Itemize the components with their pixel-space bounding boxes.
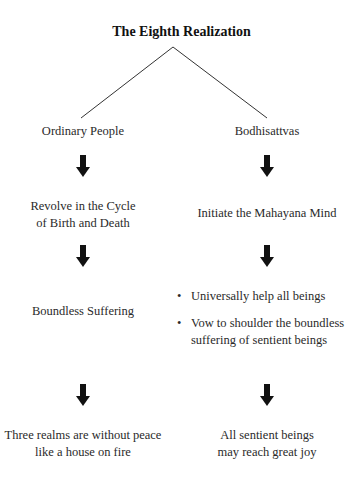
bullet-item: • Vow to shoulder the boundless sufferin… — [177, 315, 344, 349]
down-arrow-icon — [260, 245, 274, 267]
bodhisattva-bullet-list: • Universally help all beings • Vow to s… — [177, 288, 344, 349]
step-three-realms: Three realms are without peace like a ho… — [0, 427, 166, 461]
step-cycle-of-birth-death: Revolve in the Cycle of Birth and Death — [0, 198, 166, 232]
down-arrow-icon — [76, 384, 90, 406]
heading-bodhisattvas: Bodhisattvas — [187, 123, 347, 140]
step-initiate-mahayana-mind: Initiate the Mahayana Mind — [187, 205, 347, 222]
bullet-item: • Universally help all beings — [177, 288, 344, 305]
down-arrow-icon — [76, 245, 90, 267]
heading-ordinary-people: Ordinary People — [0, 123, 166, 140]
step-boundless-suffering: Boundless Suffering — [0, 303, 166, 320]
down-arrow-icon — [76, 155, 90, 177]
down-arrow-icon — [260, 155, 274, 177]
step-great-joy: All sentient beings may reach great joy — [187, 427, 347, 461]
down-arrow-icon — [260, 384, 274, 406]
branch-lines — [0, 0, 363, 486]
